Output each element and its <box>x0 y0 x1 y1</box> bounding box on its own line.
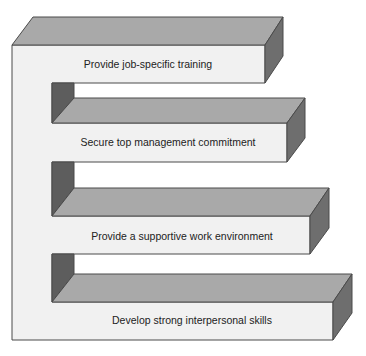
step-1-label: Provide job-specific training <box>84 58 213 70</box>
step-3-top-face <box>52 188 329 216</box>
step-4-label: Develop strong interpersonal skills <box>112 314 272 326</box>
staircase-diagram: Provide job-specific training Secure top… <box>0 0 366 356</box>
step-3-label: Provide a supportive work environment <box>91 230 273 242</box>
step-1-top-face <box>12 17 283 45</box>
step-4-top-face <box>52 274 352 302</box>
step-2-top-face <box>52 98 305 123</box>
step-2-label: Secure top management commitment <box>80 136 255 148</box>
